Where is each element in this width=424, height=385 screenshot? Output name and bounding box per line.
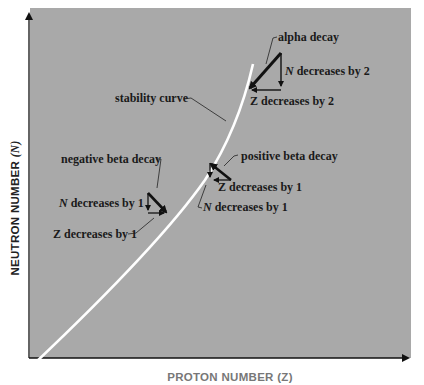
negative-z-change: Z decreases by 1 [53, 227, 137, 241]
stability-curve-label: stability curve [115, 91, 188, 105]
positive-beta-label: positive beta decay [241, 149, 338, 163]
negative-beta-label: negative beta decay [61, 152, 161, 166]
alpha-n-change: N decreases by 2 [285, 64, 370, 78]
x-axis-label: PROTON NUMBER (Z) [150, 371, 310, 385]
positive-n-change: N decreases by 1 [203, 200, 288, 214]
positive-z-change: Z decreases by 1 [218, 180, 302, 194]
alpha-decay-label: alpha decay [278, 30, 339, 44]
alpha-z-change: Z decreases by 2 [250, 94, 334, 108]
y-axis-label: NEUTRON NUMBER (N) [9, 133, 25, 283]
negative-n-change: N decreases by 1 [59, 196, 144, 210]
